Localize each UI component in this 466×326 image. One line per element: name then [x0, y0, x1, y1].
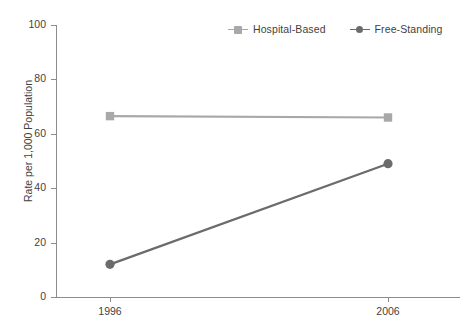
data-point-free-standing-1996[interactable] [105, 260, 114, 269]
data-point-hospital-based-2006[interactable] [384, 113, 392, 121]
data-point-hospital-based-1996[interactable] [106, 112, 114, 120]
series-layer [0, 0, 466, 326]
series-line-free-standing [110, 164, 388, 265]
data-point-free-standing-2006[interactable] [383, 159, 392, 168]
series-line-hospital-based [110, 116, 388, 117]
line-chart: Hospital-Based Free-Standing Rate per 1,… [0, 0, 466, 326]
